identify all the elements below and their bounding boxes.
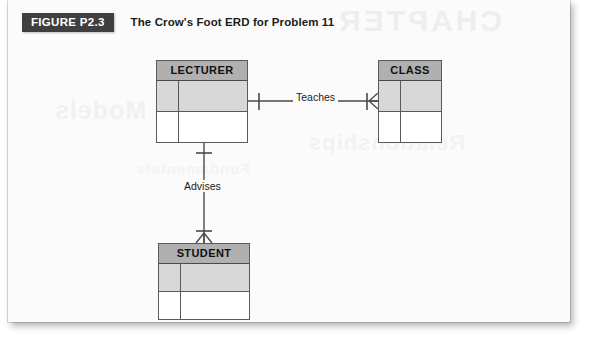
entity-class-row-1: [379, 81, 441, 112]
entity-student-row-2-attr-cell: [181, 292, 249, 319]
entity-lecturer-row-1-attr-cell: [179, 81, 247, 111]
advises-crowsfoot-left: [196, 233, 204, 243]
relationship-label-teaches: Teaches: [293, 91, 338, 103]
entity-student-row-1-key-cell: [159, 264, 181, 291]
teaches-crowsfoot-lower: [369, 101, 378, 109]
entity-lecturer-row-2-attr-cell: [179, 112, 247, 142]
entity-student-row-1-attr-cell: [181, 264, 249, 291]
entity-lecturer-row-1-key-cell: [157, 81, 179, 111]
entity-lecturer-row-2: [157, 112, 247, 142]
entity-class-row-2: [379, 112, 441, 142]
entity-lecturer[interactable]: LECTURER: [156, 60, 248, 143]
printed-page: CHAPTER Data Models Fundamentals Relatio…: [8, 0, 570, 322]
entity-student-row-1: [159, 264, 249, 292]
entity-class-name: CLASS: [379, 61, 441, 81]
entity-class-row-2-attr-cell: [401, 112, 441, 142]
relationship-lines: [8, 0, 570, 322]
entity-class[interactable]: CLASS: [378, 60, 442, 143]
entity-student-row-2: [159, 292, 249, 319]
entity-lecturer-name: LECTURER: [157, 61, 247, 81]
advises-crowsfoot-right: [204, 233, 212, 243]
figure-screenshot: CHAPTER Data Models Fundamentals Relatio…: [0, 0, 596, 360]
relationship-label-advises: Advises: [181, 180, 224, 192]
entity-student-name: STUDENT: [159, 244, 249, 264]
erd-diagram: Teaches Advises LECTURER CLASS: [8, 0, 570, 322]
entity-lecturer-row-1: [157, 81, 247, 112]
entity-class-row-1-attr-cell: [401, 81, 441, 111]
teaches-crowsfoot-upper: [369, 93, 378, 101]
entity-class-row-2-key-cell: [379, 112, 401, 142]
entity-student[interactable]: STUDENT: [158, 243, 250, 320]
entity-student-row-2-key-cell: [159, 292, 181, 319]
entity-class-row-1-key-cell: [379, 81, 401, 111]
entity-lecturer-row-2-key-cell: [157, 112, 179, 142]
